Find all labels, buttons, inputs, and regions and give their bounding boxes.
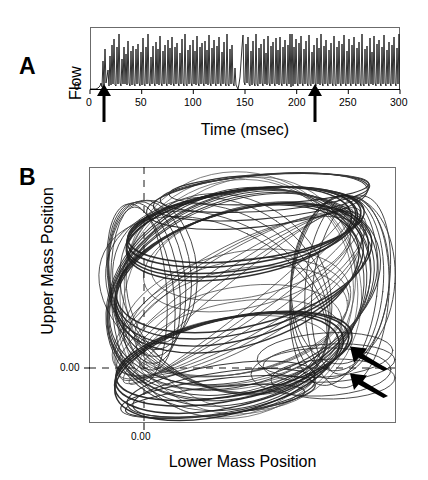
panel-a-xtick-50: 50: [135, 97, 147, 108]
panel-a-marker-arrow-2: [305, 84, 325, 122]
panel-a-xtick-100: 100: [184, 97, 202, 108]
panel-b-ylabel: Upper Mass Position: [40, 161, 56, 361]
panel-a-xlabel: Time (msec): [90, 122, 400, 138]
panel-a-xtick-300: 300: [390, 97, 408, 108]
panel-b-letter: B: [19, 166, 36, 189]
panel-b-xlabel: Lower Mass Position: [89, 454, 396, 470]
panel-a: A Flow 0 0 50 100 150 200 250 300: [0, 0, 428, 155]
panel-a-xtick-200: 200: [288, 97, 306, 108]
panel-b-marker-arrow-lower: [347, 372, 389, 398]
panel-b: B Upper Mass Position 0.00 0.00: [0, 155, 428, 480]
panel-a-xtick-0: 0: [86, 97, 92, 108]
panel-a-flow-trace: [90, 27, 400, 89]
panel-a-xtick-150: 150: [236, 97, 254, 108]
panel-a-letter: A: [19, 55, 36, 78]
panel-a-marker-arrow-1: [94, 84, 114, 122]
panel-b-marker-arrow-upper: [347, 345, 389, 371]
figure-container: A Flow 0 0 50 100 150 200 250 300: [0, 0, 428, 480]
panel-a-xtick-250: 250: [339, 97, 357, 108]
